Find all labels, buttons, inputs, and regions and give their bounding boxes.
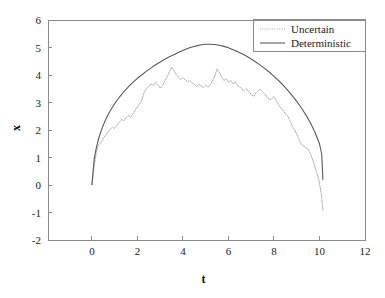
x-tick-label: 0	[89, 245, 95, 257]
y-tick-label: 2	[36, 124, 42, 136]
data-series-group	[92, 44, 323, 210]
y-axis-tick-labels: -2-10123456	[32, 14, 42, 246]
y-tick-label: 5	[36, 42, 42, 54]
x-tick-label: 8	[271, 245, 277, 257]
x-tick-label: 4	[180, 245, 186, 257]
x-axis-tick-labels: 024681012	[89, 245, 370, 257]
plot-frame	[48, 20, 365, 240]
x-tick-label: 10	[314, 245, 326, 257]
x-axis-ticks	[92, 236, 365, 240]
y-tick-label: 4	[36, 69, 42, 81]
y-axis-title: x	[9, 125, 23, 131]
y-axis-ticks	[48, 20, 52, 240]
y-tick-label: 1	[36, 152, 42, 164]
y-tick-label: 3	[36, 97, 42, 109]
legend-label-deterministic: Deterministic	[291, 37, 351, 49]
series-line-deterministic	[92, 44, 323, 184]
x-tick-label: 6	[226, 245, 232, 257]
chart-container: 024681012 -2-10123456 t x UncertainDeter…	[0, 0, 385, 298]
x-tick-label: 12	[360, 245, 371, 257]
line-chart: 024681012 -2-10123456 t x UncertainDeter…	[0, 0, 385, 298]
y-tick-label: -2	[32, 234, 41, 246]
x-tick-label: 2	[135, 245, 141, 257]
y-tick-label: 6	[36, 14, 42, 26]
legend-label-uncertain: Uncertain	[291, 23, 335, 35]
y-tick-label: -1	[32, 207, 41, 219]
x-axis-title: t	[202, 272, 206, 286]
y-tick-label: 0	[36, 179, 42, 191]
chart-legend: UncertainDeterministic	[253, 19, 365, 51]
